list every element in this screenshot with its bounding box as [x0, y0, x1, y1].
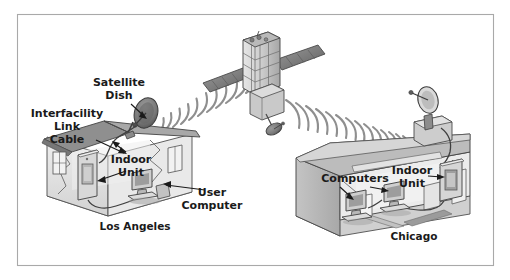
label-ifl-line-2: Link: [54, 120, 81, 133]
label-user-computer-line-2: Computer: [182, 199, 244, 212]
label-user-computer-line-1: User: [198, 186, 227, 199]
label-ifl-line-1: Interfacility: [31, 107, 104, 120]
label-city-chicago: Chicago: [391, 230, 438, 242]
label-indoor-unit-right-line-1: Indoor: [392, 164, 433, 177]
label-computers: Computers: [321, 172, 389, 185]
diagram-canvas: Satellite Dish Interfacility Link Cable …: [0, 0, 510, 280]
label-satellite-dish-line-2: Dish: [105, 89, 132, 102]
label-computers-line-1: Computers: [321, 172, 389, 185]
label-indoor-unit-left-line-2: Unit: [118, 166, 144, 179]
label-satellite-dish-line-1: Satellite: [93, 76, 145, 89]
label-indoor-unit-left-line-1: Indoor: [111, 153, 152, 166]
label-ifl-line-3: Cable: [50, 133, 85, 146]
label-city-los-angeles: Los Angeles: [99, 220, 170, 232]
label-indoor-unit-right-line-2: Unit: [399, 177, 425, 190]
satellite-network-diagram: Satellite Dish Interfacility Link Cable …: [0, 0, 510, 280]
